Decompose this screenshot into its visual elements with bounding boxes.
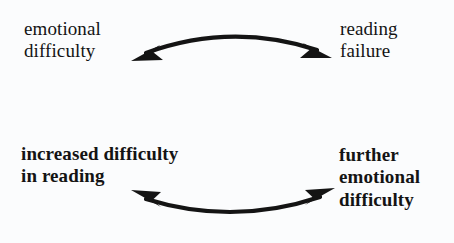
cycle-diagram: emotional difficulty reading failure inc… [0, 0, 454, 243]
bottom-connector-left-arrowhead [131, 190, 161, 207]
bottom-connector-right-arrowhead [305, 188, 335, 205]
top-connector-arc [146, 37, 317, 53]
bottom-connector-arc [146, 197, 320, 212]
bottom-connector-arrow [131, 188, 335, 212]
top-connector-arrow [131, 37, 332, 61]
connector-layer [0, 0, 454, 243]
